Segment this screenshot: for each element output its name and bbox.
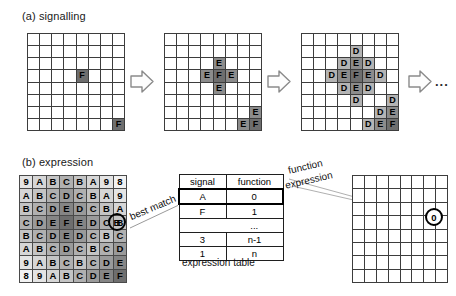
cell-signal: A: [179, 189, 226, 204]
output-grid-cell: [365, 230, 377, 243]
expression-cell: A: [33, 176, 46, 189]
grid-cell: [165, 70, 177, 82]
grid-cell: [77, 34, 89, 46]
grid-cell: [226, 58, 238, 70]
output-grid-cell: [377, 216, 389, 229]
output-grid-cell: [353, 176, 365, 189]
expression-cell: C: [87, 256, 100, 269]
expression-cell: E: [100, 270, 113, 283]
expression-cell: D: [74, 230, 87, 243]
header-signal: signal: [179, 175, 226, 190]
grid-cell: [77, 119, 89, 131]
grid-cell: [351, 119, 363, 131]
expression-cell: D: [87, 216, 100, 229]
grid-cell: [89, 95, 101, 107]
grid-cell: [165, 46, 177, 58]
grid-cell: [351, 107, 363, 119]
grid-cell: F: [351, 70, 363, 82]
output-grid-cell: [401, 230, 413, 243]
grid-cell: [363, 34, 375, 46]
grid-cell: [387, 58, 399, 70]
grid-cell: [363, 107, 375, 119]
grid-cell: [326, 83, 338, 95]
table-row: 3n-1: [179, 233, 283, 247]
grid-cell: [238, 34, 250, 46]
expression-cell: A: [20, 243, 33, 256]
block-arrow-3: [409, 71, 431, 92]
expression-cell: C: [87, 203, 100, 216]
output-grid-cell: [401, 176, 413, 189]
cell-function: 1: [226, 204, 283, 219]
grid-cell: [28, 46, 40, 58]
output-grid-cell: [365, 189, 377, 202]
grid-cell: [28, 119, 40, 131]
grid-cell: [101, 58, 113, 70]
table-row: ...: [179, 219, 283, 233]
grid-cell: [351, 34, 363, 46]
cell-signal: 3: [179, 233, 226, 247]
grid-cell: [189, 46, 201, 58]
output-grid-cell: [412, 203, 424, 216]
grid-cell: [52, 83, 64, 95]
grid-cell: E: [214, 83, 226, 95]
grid-cell: [302, 107, 314, 119]
output-grid-cell: [365, 270, 377, 283]
grid-cell: [177, 83, 189, 95]
grid-cell: [326, 95, 338, 107]
grid-cell: [226, 46, 238, 58]
grid-cell: [40, 58, 52, 70]
output-grid-cell: [365, 243, 377, 256]
grid-cell: [101, 83, 113, 95]
output-grid-cell: [365, 216, 377, 229]
output-grid-cell: [424, 230, 436, 243]
best-match-circle-label: B: [114, 217, 121, 228]
expression-cell: C: [87, 230, 100, 243]
expression-cell: A: [87, 176, 100, 189]
grid-cell: [189, 70, 201, 82]
grid-cell: [77, 95, 89, 107]
output-grid-cell: [424, 176, 436, 189]
grid-cell: [201, 46, 213, 58]
output-grid-cell: [365, 203, 377, 216]
output-marker-circle: 0: [425, 208, 443, 226]
expression-cell: D: [47, 230, 60, 243]
expression-cell: C: [47, 243, 60, 256]
grid-cell: [177, 107, 189, 119]
expression-cell: C: [74, 243, 87, 256]
grid-cell: [250, 83, 262, 95]
output-grid-cell: [401, 203, 413, 216]
grid-cell: [165, 58, 177, 70]
expression-cell: C: [74, 270, 87, 283]
grid-cell: F: [387, 119, 399, 131]
grid-cell: [40, 34, 52, 46]
output-grid-cell: [436, 189, 448, 202]
grid-cell: [338, 34, 350, 46]
panel-b-title: (b) expression: [22, 156, 93, 168]
grid-cell: [238, 58, 250, 70]
grid-cell: [77, 83, 89, 95]
grid-cell: [201, 58, 213, 70]
grid-cell: [40, 70, 52, 82]
best-match-label: best match: [128, 193, 177, 222]
grid-cell: [375, 83, 387, 95]
grid-cell: [52, 34, 64, 46]
cell-function: n-1: [226, 233, 283, 247]
grid-cell: [189, 34, 201, 46]
grid-cell: [238, 46, 250, 58]
grid-cell: [28, 83, 40, 95]
output-grid-cell: [377, 189, 389, 202]
output-grid-cell: [365, 176, 377, 189]
expression-cell: B: [47, 176, 60, 189]
expression-cell: A: [47, 270, 60, 283]
output-grid-cell: [401, 243, 413, 256]
grid-cell: [113, 83, 125, 95]
grid-cell: [89, 34, 101, 46]
expression-cell: C: [114, 230, 127, 243]
output-grid-cell: [365, 256, 377, 269]
grid-cell: [89, 46, 101, 58]
expression-cell: C: [60, 176, 73, 189]
output-grid-cell: [389, 203, 401, 216]
grid-cell: [326, 34, 338, 46]
grid-cell: [101, 95, 113, 107]
grid-cell: [314, 70, 326, 82]
